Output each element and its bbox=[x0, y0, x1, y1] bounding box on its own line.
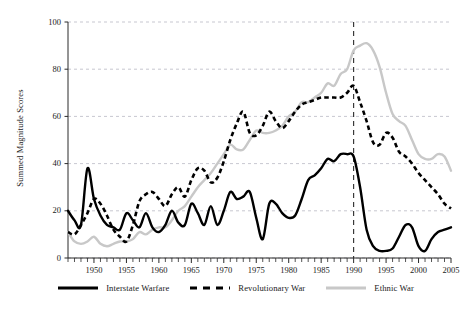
plot-area bbox=[0, 0, 471, 312]
chart-container: Summed Magnitude Scores 020406080100 195… bbox=[0, 0, 471, 312]
series-line-interstate-warfare bbox=[68, 153, 451, 251]
solid-black-line-icon bbox=[57, 283, 99, 293]
legend-label-interstate-warfare: Interstate Warfare bbox=[106, 283, 169, 293]
legend-item-revolutionary-war: Revolutionary War bbox=[189, 283, 305, 293]
legend-item-interstate-warfare: Interstate Warfare bbox=[57, 283, 169, 293]
legend-label-revolutionary-war: Revolutionary War bbox=[238, 283, 305, 293]
chart-legend: Interstate Warfare Revolutionary War Eth… bbox=[0, 283, 471, 293]
legend-label-ethnic-war: Ethnic War bbox=[374, 283, 414, 293]
legend-item-ethnic-war: Ethnic War bbox=[325, 283, 414, 293]
dashed-black-line-icon bbox=[189, 283, 231, 293]
solid-gray-line-icon bbox=[325, 283, 367, 293]
